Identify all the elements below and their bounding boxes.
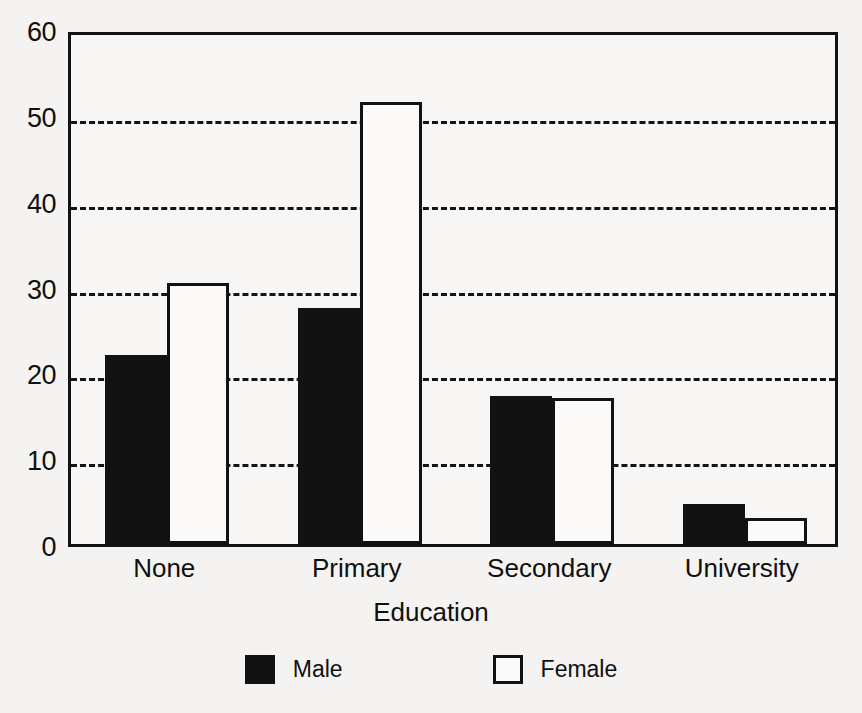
bar-none-male [105, 355, 167, 544]
bar-university-female [745, 518, 807, 544]
legend-swatch-icon [245, 655, 275, 684]
x-tick-label: Primary [312, 553, 402, 584]
y-tick-label: 40 [0, 188, 56, 219]
legend-label: Male [293, 656, 343, 683]
bar-primary-female [360, 102, 422, 544]
y-tick-label: 0 [0, 532, 56, 563]
chart-legend: MaleFemale [0, 655, 862, 684]
x-tick-label: Secondary [487, 553, 611, 584]
y-tick-label: 10 [0, 446, 56, 477]
y-axis: 0102030405060 [0, 32, 56, 547]
x-tick-label: University [685, 553, 799, 584]
bar-none-female [167, 283, 229, 544]
bar-secondary-male [490, 396, 552, 544]
gridline [71, 207, 835, 210]
bar-secondary-female [552, 398, 614, 544]
bar-university-male [683, 504, 745, 544]
legend-label: Female [541, 656, 618, 683]
chart-page: 0102030405060 NonePrimarySecondaryUniver… [0, 0, 862, 713]
y-tick-label: 30 [0, 274, 56, 305]
x-tick-label: None [133, 553, 195, 584]
x-axis: NonePrimarySecondaryUniversity [68, 553, 838, 593]
plot-area [68, 32, 838, 547]
plot-inner [71, 35, 835, 544]
gridline [71, 121, 835, 124]
y-tick-label: 60 [0, 17, 56, 48]
legend-swatch-icon [493, 655, 523, 684]
y-tick-label: 20 [0, 360, 56, 391]
x-axis-title: Education [0, 597, 862, 628]
bar-primary-male [298, 308, 360, 544]
y-tick-label: 50 [0, 102, 56, 133]
legend-item-male: Male [245, 655, 343, 684]
legend-item-female: Female [493, 655, 618, 684]
